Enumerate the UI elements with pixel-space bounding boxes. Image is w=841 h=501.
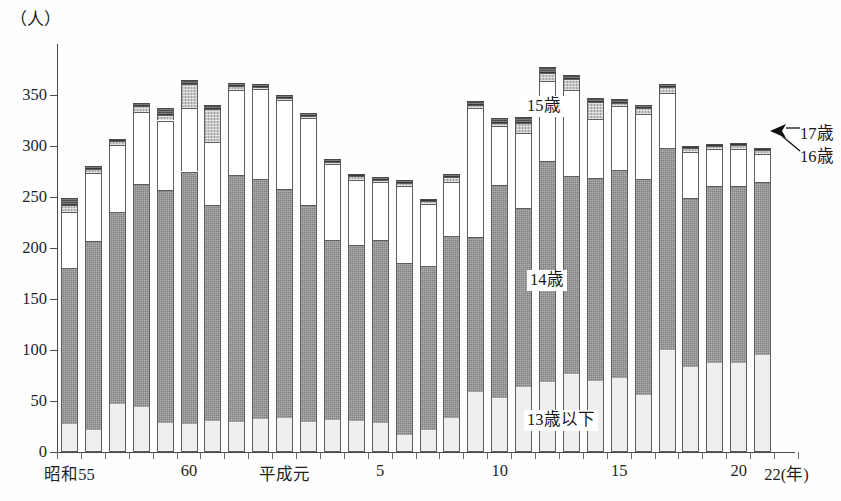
y-tick-label: 350: [3, 87, 47, 104]
x-tick-mark: [583, 452, 584, 459]
bar-segment: [396, 183, 413, 186]
callout-label-age17: 17歳: [800, 120, 834, 144]
bar-segment: [133, 184, 150, 407]
bar-segment: [611, 170, 628, 377]
bar-segment: [324, 164, 341, 239]
bar-segment: [515, 123, 532, 133]
x-tick-label: 22(年): [764, 461, 809, 485]
bar-segment: [85, 169, 102, 172]
bar-segment: [754, 150, 771, 154]
x-tick-label: 20: [730, 461, 747, 481]
bar-segment: [181, 424, 198, 452]
bar-segment: [491, 398, 508, 452]
bar-column: [491, 118, 508, 452]
x-tick-mark: [296, 452, 297, 459]
bar-segment: [730, 186, 747, 363]
bar-segment: [515, 208, 532, 387]
bar-column: [443, 174, 460, 452]
annotation-age14: 14歳: [527, 270, 567, 291]
bar-segment: [467, 237, 484, 392]
x-tick-mark: [750, 452, 751, 459]
bar-column: [61, 198, 78, 452]
bar-column: [563, 75, 580, 452]
x-tick-mark: [81, 452, 82, 459]
bar-column: [635, 105, 652, 452]
bar-column: [539, 67, 556, 452]
y-tick-label: 200: [3, 240, 47, 257]
bar-segment: [611, 378, 628, 452]
x-tick-mark: [344, 452, 345, 459]
bar-column: [611, 99, 628, 452]
x-tick-mark: [487, 452, 488, 459]
bar-segment: [467, 392, 484, 452]
x-tick-label: 10: [491, 461, 508, 481]
x-tick-mark: [248, 452, 249, 459]
bar-top-edge: [467, 101, 484, 102]
x-tick-mark: [224, 452, 225, 459]
bar-segment: [181, 84, 198, 108]
x-tick-mark: [129, 452, 130, 459]
x-tick-mark: [726, 452, 727, 459]
x-tick-mark: [320, 452, 321, 459]
bar-top-edge: [443, 174, 460, 175]
bar-segment: [706, 186, 723, 363]
x-tick-mark: [798, 452, 799, 459]
bar-segment: [85, 241, 102, 430]
bar-top-edge: [181, 80, 198, 81]
bar-column: [396, 180, 413, 452]
bar-top-edge: [635, 105, 652, 106]
bar-segment: [61, 205, 78, 212]
bar-segment: [730, 149, 747, 186]
y-tick-label: 150: [3, 291, 47, 308]
y-tick-label: 300: [3, 138, 47, 155]
bar-top-edge: [252, 84, 269, 85]
bar-segment: [324, 162, 341, 164]
bar-top-edge: [133, 103, 150, 104]
bar-segment: [443, 418, 460, 452]
bar-segment: [348, 176, 365, 180]
chart-page: （人） 050100150200250300350 昭和5560平成元51015…: [0, 0, 841, 501]
bar-segment: [539, 81, 556, 162]
bar-segment: [157, 423, 174, 452]
bar-top-edge: [109, 139, 126, 140]
bar-segment: [85, 173, 102, 241]
bar-segment: [228, 175, 245, 423]
bar-segment: [157, 190, 174, 424]
x-tick-mark: [678, 452, 679, 459]
bar-segment: [635, 108, 652, 114]
bar-top-edge: [396, 180, 413, 181]
bar-column: [181, 80, 198, 452]
x-tick-mark: [272, 452, 273, 459]
bar-segment: [204, 421, 221, 452]
bar-segment: [706, 363, 723, 452]
bar-segment: [659, 93, 676, 148]
bar-segment: [611, 103, 628, 106]
bar-segment: [348, 180, 365, 245]
bar-segment: [181, 108, 198, 171]
plot-area: [57, 52, 841, 452]
bar-segment: [420, 204, 437, 266]
bar-top-edge: [730, 143, 747, 144]
bar-top-edge: [324, 159, 341, 160]
bar-segment: [420, 266, 437, 429]
bar-segment: [635, 395, 652, 452]
x-tick-mark: [200, 452, 201, 459]
x-tick-mark: [655, 452, 656, 459]
bar-segment: [109, 141, 126, 145]
bar-segment: [61, 212, 78, 268]
y-tick-label: 100: [3, 342, 47, 359]
annotation-age15: 15歳: [524, 96, 564, 117]
bar-segment: [563, 79, 580, 90]
bar-segment: [61, 268, 78, 424]
bar-top-edge: [587, 98, 604, 99]
x-tick-mark: [57, 452, 58, 459]
bar-segment: [372, 423, 389, 452]
bar-segment: [157, 108, 174, 115]
bar-segment: [133, 112, 150, 183]
bar-segment: [420, 430, 437, 452]
bar-segment: [682, 148, 699, 152]
bar-column: [228, 83, 245, 452]
bar-column: [252, 84, 269, 452]
bar-segment: [276, 418, 293, 452]
x-tick-mark: [511, 452, 512, 459]
